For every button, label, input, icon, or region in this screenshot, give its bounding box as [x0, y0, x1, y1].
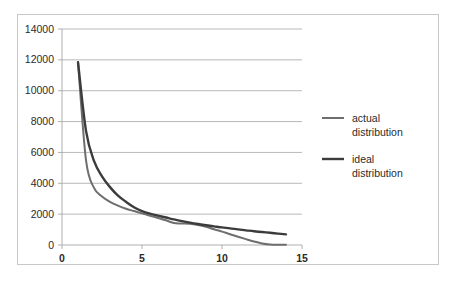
x-tick-label: 10: [216, 252, 228, 264]
y-tick-label: 8000: [31, 115, 55, 127]
y-tick-label: 2000: [31, 208, 55, 220]
axis-tickmarks: [58, 29, 302, 249]
legend-label-line2: distribution: [352, 126, 403, 138]
series-line-actual-distribution: [78, 62, 286, 245]
y-tick-label: 6000: [31, 146, 55, 158]
y-tick-label: 14000: [25, 23, 54, 35]
gridlines: [62, 29, 302, 214]
y-tick-label: 4000: [31, 177, 55, 189]
y-tick-label: 12000: [25, 53, 54, 65]
series-line-ideal-distribution: [78, 62, 286, 234]
x-axis-tick-labels: 051015: [59, 252, 308, 264]
legend-label-line2: distribution: [352, 167, 403, 179]
x-tick-label: 0: [59, 252, 65, 264]
chart-legend: actualdistributionidealdistribution: [322, 112, 403, 179]
x-tick-label: 5: [139, 252, 145, 264]
y-tick-label: 0: [48, 239, 54, 251]
x-tick-label: 15: [296, 252, 308, 264]
y-axis-tick-labels: 02000400060008000100001200014000: [25, 23, 54, 251]
series-layer: [78, 62, 286, 245]
axes: [62, 29, 302, 245]
distribution-line-chart: 02000400060008000100001200014000 051015 …: [0, 0, 455, 283]
y-tick-label: 10000: [25, 84, 54, 96]
legend-item-ideal-distribution[interactable]: idealdistribution: [322, 153, 403, 179]
legend-label-line1: ideal: [352, 153, 374, 165]
legend-item-actual-distribution[interactable]: actualdistribution: [322, 112, 403, 138]
legend-label-line1: actual: [352, 112, 380, 124]
